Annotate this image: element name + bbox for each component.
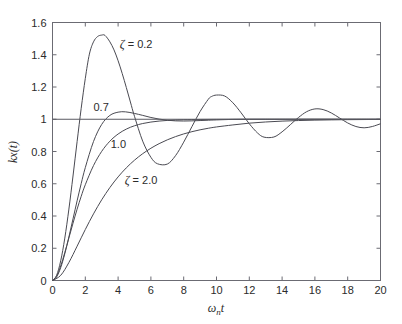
y-tick-label: 1.2: [31, 81, 46, 93]
y-tick-label: 0.6: [31, 178, 46, 190]
x-tick-label: 18: [342, 284, 354, 296]
x-tick-label: 8: [181, 284, 187, 296]
x-tick-label: 12: [243, 284, 255, 296]
y-tick-label: 1.4: [31, 49, 46, 61]
x-tick-label: 2: [82, 284, 88, 296]
x-tick-label: 20: [374, 284, 386, 296]
x-axis-title: ωnt: [208, 301, 225, 317]
zeta-0-7-label: 0.7: [94, 101, 109, 113]
y-axis-title: kx(t): [6, 141, 20, 163]
chart-figure: 0246810121416182000.20.40.60.811.21.41.6…: [0, 0, 402, 324]
x-tick-label: 0: [49, 284, 55, 296]
axis-tick-labels: 0246810121416182000.20.40.60.811.21.41.6: [31, 17, 386, 296]
y-tick-label: 1: [40, 113, 46, 125]
y-tick-label: 1.6: [31, 17, 46, 29]
data-curve-zeta-0-7: [53, 112, 381, 281]
data-curve-zeta-0-2: [53, 35, 381, 281]
x-tick-label: 6: [148, 284, 154, 296]
y-tick-label: 0: [40, 275, 46, 287]
data-curves: [53, 35, 381, 281]
zeta-0-2-label: ζ = 0.2: [120, 37, 153, 51]
x-tick-label: 14: [276, 284, 288, 296]
y-tick-label: 0.4: [31, 210, 46, 222]
zeta-1-0-label: 1.0: [111, 138, 126, 150]
y-tick-label: 0.8: [31, 146, 46, 158]
data-curve-zeta-2: [53, 119, 381, 280]
step-response-plot: 0246810121416182000.20.40.60.811.21.41.6…: [0, 0, 402, 324]
y-tick-label: 0.2: [31, 242, 46, 254]
x-tick-label: 10: [210, 284, 222, 296]
zeta-2-0-label: ζ = 2.0: [125, 173, 158, 187]
x-tick-label: 16: [309, 284, 321, 296]
x-tick-label: 4: [115, 284, 121, 296]
